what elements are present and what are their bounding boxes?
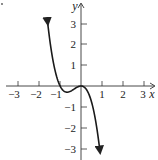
svg-text:−1: −1: [64, 101, 76, 113]
svg-text:−3: −3: [8, 88, 20, 100]
x-tick-labels: −3 −2 −1 1 2 3: [8, 88, 146, 100]
cubic-graph: −3 −2 −1 1 2 3 x 3 2 1 −1 −2 −3 y: [0, 0, 158, 160]
svg-text:3: 3: [140, 88, 146, 100]
svg-text:−2: −2: [64, 122, 76, 134]
x-axis-label: x: [148, 87, 155, 101]
svg-text:3: 3: [71, 18, 77, 30]
svg-text:1: 1: [99, 88, 105, 100]
y-tick-labels: 3 2 1 −1 −2 −3: [64, 18, 76, 155]
svg-text:2: 2: [120, 88, 126, 100]
svg-text:−3: −3: [64, 143, 76, 155]
y-axis-label: y: [71, 0, 78, 13]
stray-dot: [1, 3, 3, 5]
svg-text:1: 1: [71, 59, 77, 71]
y-axis: [78, 3, 84, 160]
svg-text:−2: −2: [30, 88, 42, 100]
svg-text:2: 2: [71, 38, 77, 50]
svg-text:−1: −1: [50, 88, 62, 100]
